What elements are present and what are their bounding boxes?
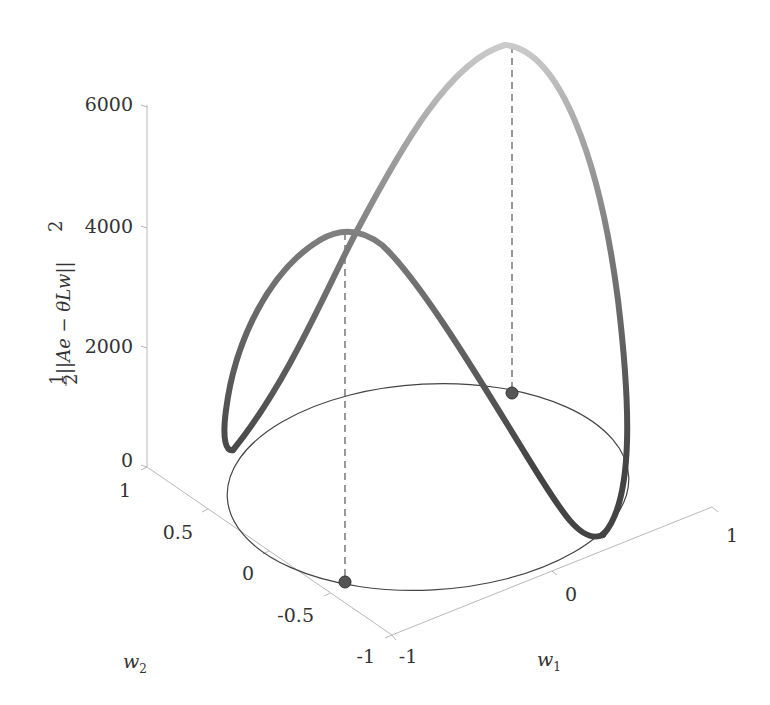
z-tick-2000: 2000: [85, 335, 133, 357]
w2-tick-neg0.5: -0.5: [277, 604, 314, 626]
svg-text:||Ae − θLw||: ||Ae − θLw||: [53, 261, 75, 374]
axes-frame: [141, 105, 718, 640]
z-axis-title: 1 2 ||Ae − θLw|| 2: [45, 221, 81, 386]
w2-axis-title: w2: [123, 650, 147, 676]
objective-curve: [224, 45, 627, 537]
z-tick-4000: 4000: [85, 215, 133, 237]
w2-tick-1: 1: [119, 479, 131, 501]
maximizer-marker-left: [339, 576, 351, 588]
z-tick-0: 0: [121, 449, 133, 471]
svg-text:2: 2: [45, 221, 66, 232]
unit-circle: [222, 374, 634, 601]
chart-canvas: 6000 4000 2000 0 1 0.5 0 -0.5 -1 -1 0 1 …: [0, 0, 770, 705]
svg-text:2: 2: [60, 374, 81, 385]
w1-tick-0: 0: [565, 583, 577, 605]
w2-tick-0.5: 0.5: [163, 521, 193, 543]
w1-tick-1: 1: [726, 524, 738, 546]
w1-axis-title: w1: [537, 648, 561, 674]
w2-tick-neg1: -1: [356, 645, 375, 667]
z-tick-6000: 6000: [85, 93, 133, 115]
w2-axis-line: [147, 467, 392, 635]
maximizer-marker-right: [506, 387, 518, 399]
w1-tick-neg1: -1: [399, 645, 418, 667]
w2-tick-0: 0: [242, 562, 254, 584]
